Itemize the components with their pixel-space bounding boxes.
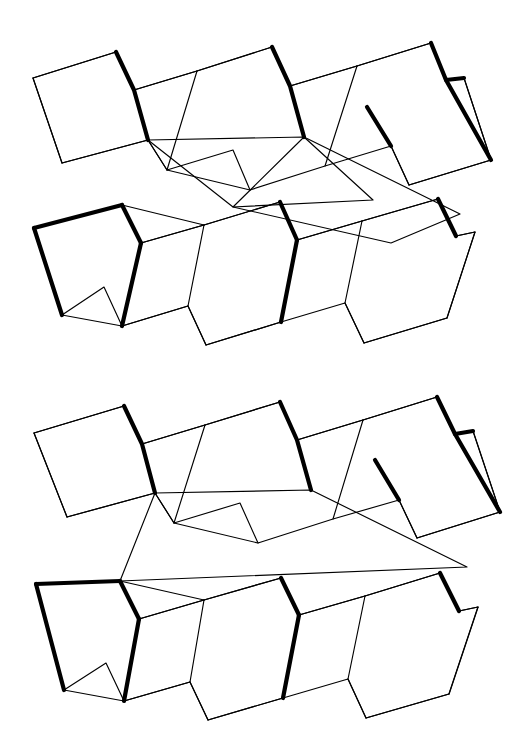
figure-canvas [0,0,530,740]
bottom-lower-bold-edge-0 [36,581,120,584]
figure-sheet [0,0,530,740]
